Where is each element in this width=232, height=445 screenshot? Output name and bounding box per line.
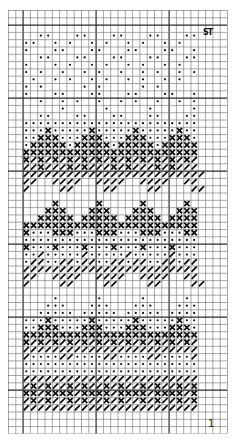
- dot-symbol: [186, 305, 188, 307]
- slash-symbol: [31, 274, 36, 279]
- cross-symbol: [46, 208, 51, 213]
- dot-symbol: [84, 122, 86, 124]
- dot-symbol: [193, 137, 195, 139]
- slash-symbol: [199, 186, 204, 191]
- dot-symbol: [193, 312, 195, 314]
- dot-symbol: [157, 253, 159, 255]
- slash-symbol: [162, 267, 167, 272]
- cross-symbol: [155, 157, 160, 162]
- dot-symbol: [47, 261, 49, 263]
- dot-symbol: [178, 356, 180, 358]
- dot-symbol: [149, 326, 151, 328]
- slash-symbol: [82, 259, 87, 264]
- dot-symbol: [98, 93, 100, 95]
- slash-symbol: [75, 376, 80, 381]
- cross-symbol: [192, 398, 197, 403]
- cross-symbol: [97, 208, 102, 213]
- cross-symbol: [192, 383, 197, 388]
- slash-symbol: [148, 376, 153, 381]
- cross-symbol: [82, 150, 87, 155]
- cross-symbol: [111, 150, 116, 155]
- dot-symbol: [25, 370, 27, 372]
- dot-symbol: [113, 326, 115, 328]
- dot-symbol: [157, 363, 159, 365]
- slash-symbol: [111, 347, 116, 352]
- dot-symbol: [142, 370, 144, 372]
- cross-symbol: [119, 142, 124, 147]
- cross-symbol: [104, 223, 109, 228]
- cross-symbol: [24, 332, 29, 337]
- cross-symbol: [140, 142, 145, 147]
- cross-symbol: [126, 164, 131, 169]
- dot-symbol: [135, 305, 137, 307]
- slash-symbol: [126, 267, 131, 272]
- slash-symbol: [24, 405, 29, 410]
- slash-symbol: [24, 354, 29, 359]
- dot-symbol: [69, 363, 71, 365]
- slash-symbol: [60, 281, 65, 286]
- dot-symbol: [98, 312, 100, 314]
- cross-symbol: [140, 325, 145, 330]
- cross-symbol: [104, 150, 109, 155]
- dot-symbol: [193, 34, 195, 36]
- slash-symbol: [67, 376, 72, 381]
- dot-symbol: [76, 100, 78, 102]
- slash-symbol: [119, 267, 124, 272]
- slash-symbol: [38, 259, 43, 264]
- cross-symbol: [31, 391, 36, 396]
- slash-symbol: [192, 164, 197, 169]
- dot-symbol: [193, 49, 195, 51]
- cross-symbol: [46, 150, 51, 155]
- dot-symbol: [69, 326, 71, 328]
- cross-symbol: [89, 215, 94, 220]
- dot-symbol: [40, 115, 42, 117]
- slash-symbol: [24, 164, 29, 169]
- cross-symbol: [119, 150, 124, 155]
- cross-symbol: [111, 215, 116, 220]
- dot-symbol: [142, 356, 144, 358]
- cross-symbol: [53, 391, 58, 396]
- dot-symbol: [113, 253, 115, 255]
- dot-symbol: [54, 64, 56, 66]
- dot-symbol: [127, 312, 129, 314]
- cross-symbol: [89, 150, 94, 155]
- slash-symbol: [67, 259, 72, 264]
- cross-symbol: [192, 332, 197, 337]
- slash-symbol: [148, 347, 153, 352]
- cross-symbol: [184, 157, 189, 162]
- dot-symbol: [76, 122, 78, 124]
- dot-symbol: [84, 370, 86, 372]
- cross-symbol: [60, 391, 65, 396]
- dot-symbol: [193, 253, 195, 255]
- cross-symbol: [67, 332, 72, 337]
- cross-symbol: [148, 223, 153, 228]
- cross-symbol: [67, 157, 72, 162]
- dot-symbol: [62, 129, 64, 131]
- cross-symbol: [155, 230, 160, 235]
- dot-symbol: [69, 312, 71, 314]
- cross-symbol: [177, 215, 182, 220]
- dot-symbol: [164, 137, 166, 139]
- slash-symbol: [53, 267, 58, 272]
- slash-symbol: [60, 347, 65, 352]
- slash-symbol: [75, 405, 80, 410]
- dot-symbol: [142, 42, 144, 44]
- cross-symbol: [192, 215, 197, 220]
- slash-symbol: [89, 347, 94, 352]
- slash-symbol: [155, 354, 160, 359]
- dot-symbol: [25, 261, 27, 263]
- cross-symbol: [155, 340, 160, 345]
- chart-number: 1: [208, 418, 214, 429]
- dot-symbol: [157, 115, 159, 117]
- slash-symbol: [60, 376, 65, 381]
- slash-symbol: [111, 383, 116, 388]
- dot-symbol: [142, 363, 144, 365]
- slash-symbol: [104, 354, 109, 359]
- dot-symbol: [120, 319, 122, 321]
- cross-symbol: [170, 340, 175, 345]
- dot-symbol: [113, 363, 115, 365]
- dot-symbol: [91, 64, 93, 66]
- dot-symbol: [193, 305, 195, 307]
- dot-symbol: [120, 370, 122, 372]
- dot-symbol: [69, 319, 71, 321]
